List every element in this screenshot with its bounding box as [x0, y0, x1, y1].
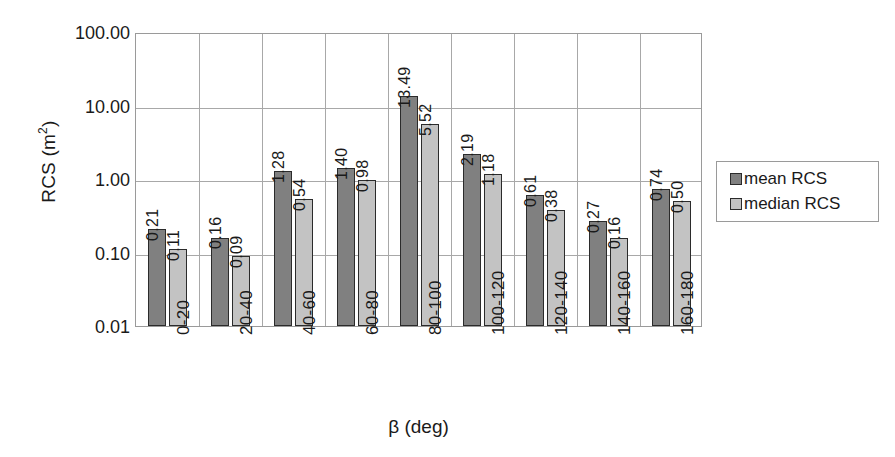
x-axis-title: β (deg)	[135, 416, 702, 438]
rcs-bar-chart: RCS (m2) 100.0010.001.000.100.01 0.210.1…	[0, 0, 895, 457]
y-axis-tick-label: 0.01	[52, 318, 130, 336]
x-axis-tick-label: 20-40	[238, 290, 255, 335]
bar-mean[interactable]	[463, 154, 481, 326]
bar-mean[interactable]	[589, 221, 607, 326]
chart-legend: mean RCS median RCS	[716, 161, 879, 222]
x-axis-tick-label: 100-120	[490, 271, 507, 336]
y-axis-tick-label: 0.10	[52, 245, 130, 263]
bar-mean[interactable]	[337, 168, 355, 326]
bar-value-label: 0.11	[166, 230, 182, 261]
legend-swatch-mean-rcs	[730, 173, 742, 185]
bar-value-label: 0.98	[355, 159, 371, 191]
x-axis-tick-label: 80-100	[427, 280, 444, 335]
y-axis-tick-labels: 100.0010.001.000.100.01	[45, 0, 130, 457]
bar-mean[interactable]	[148, 229, 166, 326]
bar-value-label: 0.16	[607, 217, 623, 249]
bar-mean[interactable]	[526, 195, 544, 326]
bar-value-label: 2.19	[460, 134, 476, 166]
bar-value-label: 1.28	[271, 151, 287, 183]
legend-item-median-rcs: median RCS	[730, 195, 840, 212]
bar-value-label: 0.21	[145, 208, 161, 240]
bar-value-label: 1.40	[334, 148, 350, 180]
bar-value-label: 0.09	[229, 236, 245, 268]
x-axis-tick-label: 40-60	[301, 290, 318, 335]
x-axis-tick-label: 160-180	[679, 271, 696, 336]
bar-mean[interactable]	[274, 171, 292, 326]
bar-value-label: 0.61	[523, 174, 539, 206]
bar-value-label: 1.18	[481, 153, 497, 185]
bar-group: 0.160.09	[199, 34, 262, 326]
x-axis-tick-label: 140-160	[616, 271, 633, 336]
legend-swatch-median-rcs	[730, 198, 742, 210]
bar-group: 0.210.11	[136, 34, 199, 326]
x-axis-tick-label: 0-20	[175, 300, 192, 335]
bar-mean[interactable]	[211, 238, 229, 327]
bar-group: 1.280.54	[262, 34, 325, 326]
bar-value-label: 5.52	[418, 104, 434, 136]
bar-value-label: 0.38	[544, 190, 560, 222]
legend-item-mean-rcs: mean RCS	[730, 170, 827, 187]
x-axis-tick-label: 120-140	[553, 271, 570, 336]
bar-group: 1.400.98	[325, 34, 388, 326]
y-axis-tick-label: 1.00	[52, 171, 130, 189]
bar-value-label: 0.74	[649, 168, 665, 200]
bar-value-label: 0.16	[208, 217, 224, 249]
y-axis-tick-label: 100.00	[52, 24, 130, 42]
legend-label-median-rcs: median RCS	[744, 195, 840, 212]
bar-value-label: 13.49	[397, 66, 413, 108]
y-axis-tick-label: 10.00	[52, 98, 130, 116]
bar-value-label: 0.50	[670, 181, 686, 213]
bar-mean[interactable]	[652, 189, 670, 326]
bar-mean[interactable]	[400, 96, 418, 326]
bar-value-label: 0.27	[586, 200, 602, 232]
x-axis-tick-label: 60-80	[364, 290, 381, 335]
legend-label-mean-rcs: mean RCS	[744, 170, 827, 187]
bar-value-label: 0.54	[292, 178, 308, 210]
